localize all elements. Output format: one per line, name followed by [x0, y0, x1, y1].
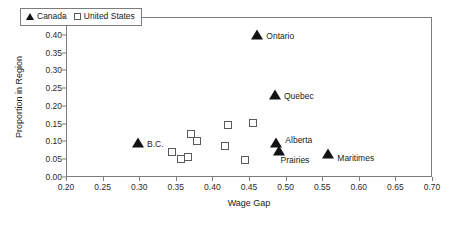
triangle-marker-icon: [273, 145, 285, 155]
y-axis-tick-label: 0.35: [45, 48, 62, 57]
y-axis-tick-label: 0.15: [45, 119, 62, 128]
y-axis-tick-label: 0.00: [45, 173, 62, 182]
data-point-canada: [132, 138, 144, 148]
y-axis-tick-labels: 0.000.050.100.150.200.250.300.350.400.45: [0, 0, 62, 231]
triangle-marker-icon: [322, 148, 334, 158]
data-point-united-states: [241, 156, 249, 164]
legend-triangle-icon: [26, 13, 34, 20]
data-point-label: Maritimes: [337, 154, 374, 163]
x-axis-tick-label: 0.55: [314, 183, 331, 192]
y-axis-tick-label: 0.20: [45, 102, 62, 111]
triangle-marker-icon: [251, 30, 263, 40]
x-axis-tick-mark: [212, 177, 213, 181]
plot-area: B.C.OntarioQuebecAlbertaPrairiesMaritime…: [66, 17, 432, 177]
triangle-marker-icon: [132, 138, 144, 148]
data-point-label: Alberta: [285, 136, 312, 145]
y-axis-tick-label: 0.10: [45, 137, 62, 146]
x-axis-tick-label: 0.20: [58, 183, 75, 192]
data-point-canada: [273, 145, 285, 155]
data-point-united-states: [221, 142, 229, 150]
x-axis-tick-mark: [176, 177, 177, 181]
y-axis-tick-label: 0.05: [45, 155, 62, 164]
triangle-marker-icon: [269, 90, 281, 100]
data-point-united-states: [168, 148, 176, 156]
data-point-united-states: [184, 153, 192, 161]
data-point-canada: [269, 90, 281, 100]
x-axis-tick-mark: [286, 177, 287, 181]
y-axis-tick-label: 0.30: [45, 66, 62, 75]
x-axis-tick-label: 0.40: [204, 183, 221, 192]
y-axis-tick-mark: [62, 141, 66, 142]
x-axis-tick-label: 0.65: [387, 183, 404, 192]
y-axis-tick-mark: [62, 88, 66, 89]
legend-entry: Canada: [26, 12, 67, 21]
x-axis-tick-mark: [249, 177, 250, 181]
data-point-label: B.C.: [147, 140, 164, 149]
x-axis-title: Wage Gap: [66, 198, 432, 208]
x-axis-tick-mark: [432, 177, 433, 181]
y-axis-tick-mark: [62, 123, 66, 124]
x-axis-tick-label: 0.30: [131, 183, 148, 192]
x-axis-tick-mark: [103, 177, 104, 181]
x-axis-tick-label: 0.45: [241, 183, 258, 192]
legend-square-icon: [74, 13, 81, 20]
y-axis-tick-label: 0.40: [45, 31, 62, 40]
data-point-united-states: [193, 137, 201, 145]
x-axis-tick-label: 0.50: [277, 183, 294, 192]
x-axis-tick-mark: [359, 177, 360, 181]
x-axis-tick-label: 0.70: [424, 183, 441, 192]
data-point-united-states: [249, 119, 257, 127]
scatter-chart: Proportion in Region 0.000.050.100.150.2…: [0, 0, 454, 231]
data-point-canada: [322, 148, 334, 158]
legend-label: United States: [84, 12, 135, 21]
y-axis-tick-mark: [62, 70, 66, 71]
y-axis-tick-mark: [62, 105, 66, 106]
x-axis-tick-label: 0.35: [168, 183, 185, 192]
x-axis-tick-label: 0.25: [94, 183, 111, 192]
chart-legend: CanadaUnited States: [20, 8, 142, 26]
legend-entry: United States: [74, 12, 135, 21]
y-axis-tick-label: 0.25: [45, 84, 62, 93]
data-point-label: Quebec: [284, 92, 314, 101]
data-point-canada: [251, 30, 263, 40]
data-point-united-states: [224, 121, 232, 129]
data-point-label: Prairies: [281, 156, 310, 165]
x-axis-tick-mark: [322, 177, 323, 181]
y-axis-tick-mark: [62, 34, 66, 35]
data-point-label: Ontario: [266, 32, 294, 41]
x-axis-tick-label: 0.60: [351, 183, 368, 192]
y-axis-tick-mark: [62, 17, 66, 18]
x-axis-tick-mark: [66, 177, 67, 181]
x-axis-tick-mark: [395, 177, 396, 181]
x-axis-tick-mark: [139, 177, 140, 181]
y-axis-tick-mark: [62, 52, 66, 53]
y-axis-tick-mark: [62, 159, 66, 160]
